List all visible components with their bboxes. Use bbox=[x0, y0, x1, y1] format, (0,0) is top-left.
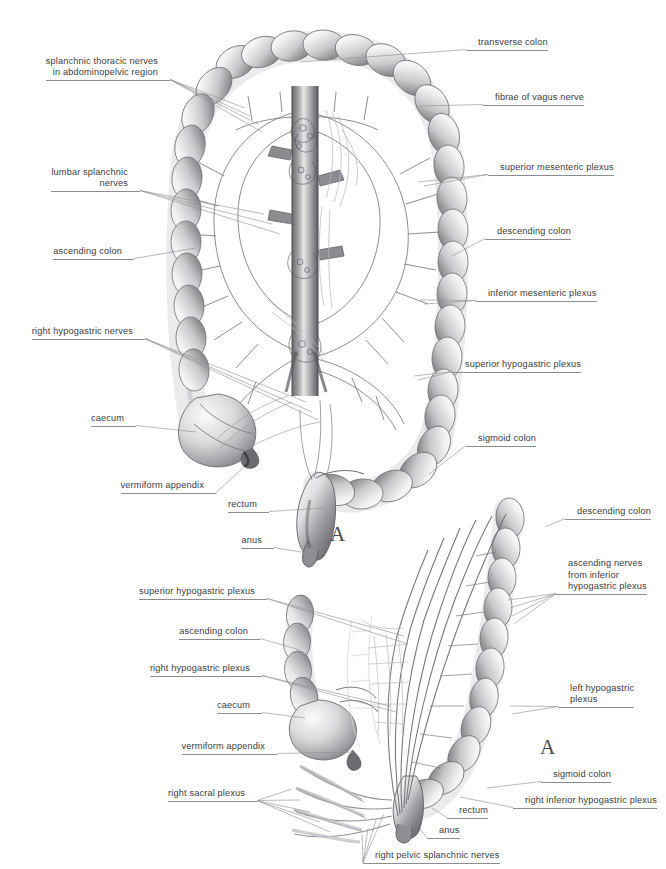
caecum-and-appendix bbox=[179, 394, 259, 468]
panel-top-artwork bbox=[170, 28, 468, 567]
prevertebral-ganglia bbox=[288, 119, 321, 363]
label-right-pelvic-splanchnic-nerves: right pelvic splanchnic nerves bbox=[375, 850, 500, 862]
label-right-sacral-plexus-line-0: right sacral plexus bbox=[168, 788, 245, 800]
label-rule-transverse-colon bbox=[466, 50, 548, 51]
leader-fibrae-of-vagus-nerve bbox=[420, 105, 483, 107]
leader-superior-hypogastric-plexus-bottom bbox=[267, 599, 408, 645]
leader-left-hypogastric-plexus bbox=[512, 707, 558, 715]
label-caecum-top-line-0: caecum bbox=[91, 413, 124, 425]
label-rule-ascending-colon-top bbox=[53, 259, 134, 260]
label-rule-vermiform-appendix-top bbox=[121, 493, 216, 494]
label-rectum-bottom: rectum bbox=[459, 805, 488, 817]
label-transverse-colon: transverse colon bbox=[478, 37, 548, 49]
label-rule-caecum-bottom bbox=[217, 713, 262, 714]
label-caecum-bottom: caecum bbox=[217, 700, 250, 712]
label-rule-descending-colon-top bbox=[485, 239, 571, 240]
sigmoid-colon bbox=[310, 394, 457, 511]
leader-ascending-nerves-from-inferior-hypogastric-plexus bbox=[514, 594, 556, 625]
vermiform-appendix-shape bbox=[241, 448, 259, 468]
label-rule-right-pelvic-splanchnic-nerves bbox=[363, 863, 500, 864]
leader-caecum-bottom bbox=[262, 713, 305, 719]
label-leader-lines bbox=[0, 0, 666, 869]
label-fibrae-of-vagus-nerve: fibrae of vagus nerve bbox=[495, 92, 584, 104]
taenia-coli bbox=[181, 46, 453, 440]
label-rule-descending-colon-bottom bbox=[565, 519, 651, 520]
label-anus-bottom-line-0: anus bbox=[439, 825, 460, 837]
ascending-colon-haustra bbox=[170, 60, 239, 391]
splanchnic-nerve-strands bbox=[268, 110, 357, 364]
label-ascending-nerves-from-inferior-hypogastric-plexus-line-2: hypogastric plexus bbox=[568, 581, 647, 593]
leader-right-sacral-plexus bbox=[257, 800, 300, 801]
label-vermiform-appendix-top-line-0: vermiform appendix bbox=[121, 480, 204, 492]
label-splanchnic-thoracic-nerves-line-0: splanchnic thoracic nerves bbox=[46, 56, 158, 68]
label-anus-bottom: anus bbox=[439, 825, 460, 837]
colon-outer-wall bbox=[181, 46, 453, 440]
label-right-inferior-hypogastric-plexus-line-0: right inferior hypogastric plexus bbox=[525, 795, 657, 807]
label-lumbar-splanchnic-nerves: lumbar splanchnicnerves bbox=[51, 167, 128, 190]
label-superior-hypogastric-plexus-top: superior hypogastric plexus bbox=[465, 359, 581, 371]
leader-inferior-mesenteric-plexus bbox=[424, 301, 476, 305]
leader-anus-bottom bbox=[420, 829, 427, 838]
label-rectum-top-line-0: rectum bbox=[228, 499, 257, 511]
leader-left-hypogastric-plexus bbox=[510, 706, 558, 707]
label-sigmoid-colon-bottom-line-0: sigmoid colon bbox=[553, 769, 611, 781]
pelvic-splanchnic-nerves bbox=[294, 768, 392, 837]
aorta-trunk bbox=[268, 86, 344, 396]
ascending-nerve-bundles bbox=[388, 514, 506, 816]
bottom-descending-sigmoid-colon bbox=[400, 497, 525, 814]
label-splanchnic-thoracic-nerves-line-1: in abdominopelvic region bbox=[46, 67, 158, 79]
label-right-sacral-plexus: right sacral plexus bbox=[168, 788, 245, 800]
descending-colon-haustra bbox=[408, 78, 469, 412]
label-right-hypogastric-plexus-line-0: right hypogastric plexus bbox=[150, 663, 250, 675]
label-superior-hypogastric-plexus-bottom: superior hypogastric plexus bbox=[139, 586, 255, 598]
label-vermiform-appendix-top: vermiform appendix bbox=[121, 480, 204, 492]
label-ascending-nerves-from-inferior-hypogastric-plexus-line-1: from inferior bbox=[568, 570, 647, 582]
label-rule-right-sacral-plexus bbox=[168, 801, 257, 802]
leader-right-sacral-plexus bbox=[257, 801, 320, 823]
anatomy-illustration bbox=[0, 0, 666, 869]
bottom-caecum-and-appendix bbox=[289, 687, 378, 770]
leader-lumbar-splanchnic-nerves bbox=[140, 191, 272, 225]
bottom-rectum-and-anus bbox=[393, 776, 423, 843]
label-left-hypogastric-plexus-line-1: plexus bbox=[570, 694, 634, 706]
panel-bottom-marker: A bbox=[540, 735, 555, 760]
label-rule-ascending-nerves-from-inferior-hypogastric-plexus bbox=[556, 594, 647, 595]
hypogastric-plexus-mesh bbox=[362, 620, 408, 736]
leader-right-sacral-plexus bbox=[257, 801, 330, 833]
leader-superior-hypogastric-plexus-top bbox=[414, 372, 453, 377]
label-rule-superior-hypogastric-plexus-top bbox=[453, 372, 581, 373]
leader-sigmoid-colon-top bbox=[429, 446, 466, 475]
label-ascending-nerves-from-inferior-hypogastric-plexus-line-0: ascending nerves bbox=[568, 558, 647, 570]
label-rule-inferior-mesenteric-plexus bbox=[476, 301, 597, 302]
label-inferior-mesenteric-plexus-line-0: inferior mesenteric plexus bbox=[488, 288, 597, 300]
leader-ascending-colon-bottom bbox=[260, 639, 300, 651]
label-rule-rectum-top bbox=[228, 512, 269, 513]
leader-vermiform-appendix-bottom bbox=[277, 752, 355, 754]
label-descending-colon-top-line-0: descending colon bbox=[497, 226, 571, 238]
leader-inferior-mesenteric-plexus bbox=[420, 300, 476, 301]
label-rule-caecum-top bbox=[91, 426, 136, 427]
bottom-ascending-colon bbox=[283, 594, 321, 717]
label-superior-hypogastric-plexus-top-line-0: superior hypogastric plexus bbox=[465, 359, 581, 371]
label-rectum-bottom-line-0: rectum bbox=[459, 805, 488, 817]
leader-splanchnic-thoracic-nerves bbox=[170, 80, 258, 125]
label-left-hypogastric-plexus: left hypogastricplexus bbox=[570, 683, 634, 706]
leader-ascending-nerves-from-inferior-hypogastric-plexus bbox=[512, 594, 556, 617]
label-superior-mesenteric-plexus-line-0: superior mesenteric plexus bbox=[500, 162, 614, 174]
label-rule-superior-hypogastric-plexus-bottom bbox=[139, 599, 267, 600]
leader-right-sacral-plexus bbox=[257, 789, 292, 801]
label-vermiform-appendix-bottom-line-0: vermiform appendix bbox=[182, 741, 265, 753]
leader-superior-hypogastric-plexus-bottom bbox=[267, 599, 404, 637]
leader-ascending-colon-top bbox=[134, 248, 196, 259]
leader-superior-mesenteric-plexus bbox=[418, 175, 488, 183]
label-caecum-top: caecum bbox=[91, 413, 124, 425]
label-lumbar-splanchnic-nerves-line-1: nerves bbox=[51, 178, 128, 190]
label-right-hypogastric-plexus: right hypogastric plexus bbox=[150, 663, 250, 675]
leader-right-pelvic-splanchnic-nerves bbox=[362, 834, 363, 863]
leader-sigmoid-colon-bottom bbox=[487, 782, 541, 789]
rectum-and-anus bbox=[297, 471, 364, 568]
leader-superior-hypogastric-plexus-top bbox=[418, 372, 453, 381]
label-rule-sigmoid-colon-bottom bbox=[541, 782, 611, 783]
label-right-hypogastric-nerves: right hypogastric nerves bbox=[32, 326, 133, 338]
label-superior-hypogastric-plexus-bottom-line-0: superior hypogastric plexus bbox=[139, 586, 255, 598]
